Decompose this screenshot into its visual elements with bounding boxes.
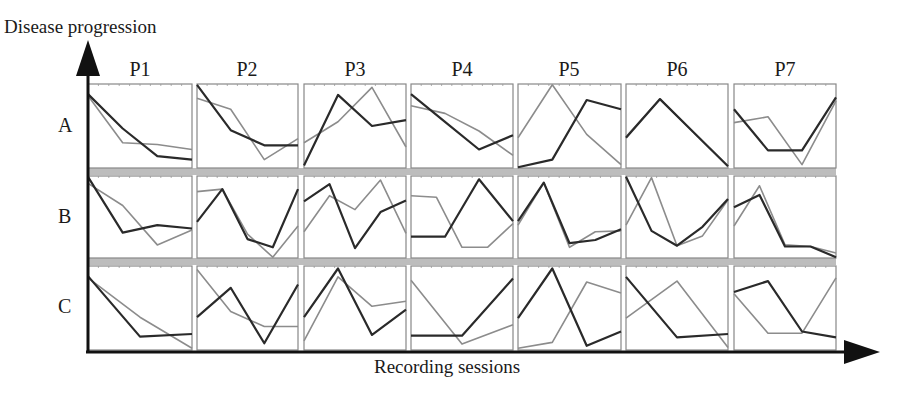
x-axis-arrow-icon: [844, 340, 880, 364]
panel-a-p1: [88, 84, 192, 168]
panel-a-p3: [304, 84, 406, 168]
y-axis-arrow-icon: [76, 40, 100, 76]
panel-b-p1: [88, 176, 192, 258]
panel-c-p2: [197, 266, 298, 350]
panel-c-p3: [304, 266, 406, 350]
row-separator: [88, 168, 836, 175]
panel-grid: [0, 0, 920, 397]
panel-a-p6: [626, 84, 728, 168]
row-separator: [88, 258, 836, 265]
panel-c-p4: [411, 266, 513, 350]
panel-a-p4: [411, 84, 513, 168]
figure: Disease progression Recording sessions P…: [0, 0, 920, 397]
panel-a-p2: [197, 84, 298, 168]
panel-a-p7: [734, 84, 836, 168]
panel-a-p5: [518, 84, 621, 168]
